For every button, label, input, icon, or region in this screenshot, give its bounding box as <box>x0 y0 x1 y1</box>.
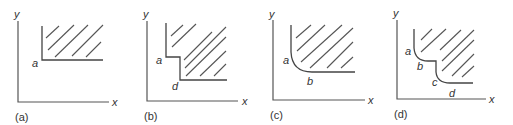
boundary-label-d-b: b <box>417 60 423 72</box>
boundary-label-a-a: a <box>32 57 38 69</box>
hatching-b <box>171 24 226 76</box>
figure-canvas: y x (a) a y x (b) a d <box>0 0 513 125</box>
y-axis-label-a: y <box>13 8 21 20</box>
y-axis-label-c: y <box>268 8 276 20</box>
caption-a: (a) <box>15 111 28 123</box>
panel-b: y x (b) a d <box>142 8 248 122</box>
panel-c: y x (c) a b <box>268 8 374 121</box>
boundary-label-c-b: b <box>307 75 313 87</box>
x-axis-label-a: x <box>111 96 118 108</box>
caption-c: (c) <box>270 109 283 121</box>
panel-a: y x (a) a <box>13 8 118 123</box>
boundary-label-b-a: a <box>156 54 162 66</box>
boundary-label-b-d: d <box>172 80 179 92</box>
hatching-a <box>46 25 103 57</box>
hatching-c <box>296 25 353 68</box>
y-axis-label-d: y <box>392 7 400 19</box>
panel-d: y x (d) a b c d <box>392 7 495 120</box>
boundary-label-d-a: a <box>405 45 411 57</box>
hatching-d <box>421 29 474 77</box>
boundary-label-d-c: c <box>432 76 438 88</box>
caption-b: (b) <box>144 110 157 122</box>
boundary-c <box>291 25 355 72</box>
boundary-label-c-a: a <box>283 54 289 66</box>
x-axis-label-d: x <box>488 93 495 105</box>
caption-d: (d) <box>394 108 407 120</box>
x-axis-label-b: x <box>241 95 248 107</box>
y-axis-label-b: y <box>142 8 150 20</box>
x-axis-label-c: x <box>367 94 374 106</box>
boundary-label-d-d: d <box>449 87 456 99</box>
